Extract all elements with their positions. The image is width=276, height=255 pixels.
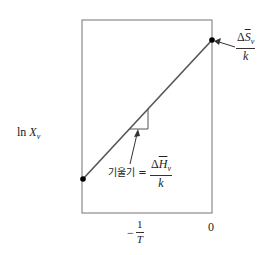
- y-axis-label: ln Xv: [17, 126, 40, 141]
- intercept-arrow-head: [214, 38, 221, 45]
- slope-arrow-head: [134, 129, 140, 137]
- intercept-point: [209, 37, 215, 43]
- plot-frame: [82, 20, 212, 213]
- diagram-canvas: [0, 0, 276, 255]
- slope-label: 기울기 =: [108, 166, 147, 178]
- start-point: [80, 176, 86, 182]
- slope-fraction: ΔHv k: [150, 158, 172, 189]
- x-tick-inverse-t: 1 T: [136, 219, 144, 245]
- x-tick-zero: 0: [208, 221, 214, 233]
- intercept-arrow: [219, 42, 235, 47]
- x-tick-sign: −: [127, 227, 134, 239]
- intercept-label: ΔSv k: [236, 31, 255, 62]
- slope-arrow: [130, 134, 137, 164]
